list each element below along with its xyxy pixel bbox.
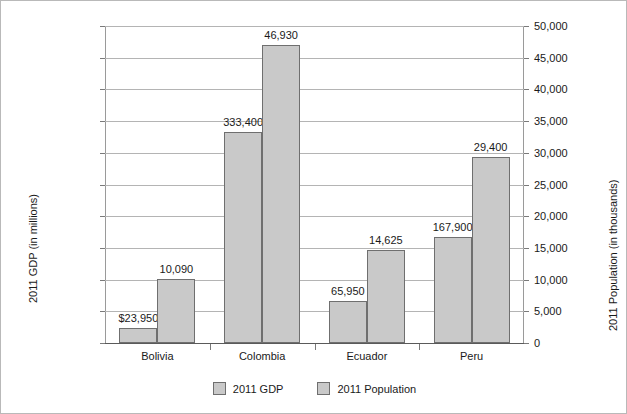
y-tick-label-right: 25,000 <box>534 180 568 191</box>
legend-item-population[interactable]: 2011 Population <box>317 382 416 395</box>
y-tick-right <box>524 248 529 249</box>
y-tick-left <box>100 26 105 27</box>
y-tick-left <box>100 121 105 122</box>
legend-swatch-icon <box>213 382 226 395</box>
y-tick-right <box>524 311 529 312</box>
bar-population <box>262 45 300 343</box>
bar-label-population: 10,090 <box>146 264 206 275</box>
y-tick-left <box>100 311 105 312</box>
y-tick-left <box>100 216 105 217</box>
y-tick-label-right: 45,000 <box>534 53 568 64</box>
y-tick-label-right: 40,000 <box>534 84 568 95</box>
bar-gdp <box>119 328 157 343</box>
x-category-label-bolivia: Bolivia <box>105 350 210 362</box>
y-tick-label-right: 50,000 <box>534 21 568 32</box>
y-tick-right <box>524 89 529 90</box>
y-tick-label-right: 10,000 <box>534 275 568 286</box>
y-tick-left <box>100 58 105 59</box>
y-tick-right <box>524 121 529 122</box>
x-category-label-colombia: Colombia <box>210 350 315 362</box>
bar-label-population: 46,930 <box>251 30 311 41</box>
gridline <box>105 89 524 90</box>
gridline <box>105 185 524 186</box>
bar-population <box>157 279 195 343</box>
legend-label: 2011 Population <box>337 383 416 395</box>
legend-label: 2011 GDP <box>233 383 284 395</box>
plot-area: $23,95010,090333,40046,93065,95014,62516… <box>105 26 524 343</box>
y-tick-right <box>524 185 529 186</box>
bar-population <box>472 157 510 343</box>
y-tick-label-right: 15,000 <box>534 243 568 254</box>
y-tick-right <box>524 280 529 281</box>
gridline <box>105 26 524 27</box>
legend: 2011 GDP2011 Population <box>1 382 627 395</box>
y-tick-right <box>524 153 529 154</box>
bar-label-population: 14,625 <box>356 235 416 246</box>
y-tick-left <box>100 280 105 281</box>
y-tick-left <box>100 153 105 154</box>
gridline <box>105 216 524 217</box>
gridline <box>105 58 524 59</box>
bar-gdp <box>224 132 262 343</box>
x-category-label-peru: Peru <box>419 350 524 362</box>
y-tick-label-right: 35,000 <box>534 116 568 127</box>
bar-chart: 2011 GDP (in millions) 2011 Population (… <box>0 0 627 414</box>
bar-gdp <box>329 301 367 343</box>
y-tick-right <box>524 216 529 217</box>
bar-population <box>367 250 405 343</box>
bar-gdp <box>434 237 472 343</box>
y-tick-right <box>524 343 529 344</box>
y-tick-label-right: 30,000 <box>534 148 568 159</box>
y-tick-right <box>524 26 529 27</box>
x-category-label-ecuador: Ecuador <box>315 350 420 362</box>
y-tick-left <box>100 185 105 186</box>
gridline <box>105 121 524 122</box>
y-tick-label-right: 5,000 <box>534 306 562 317</box>
gridline <box>105 153 524 154</box>
y-axis-title-left: 2011 GDP (in millions) <box>27 194 39 303</box>
y-axis-title-right: 2011 Population (in thousands) <box>607 180 619 331</box>
legend-swatch-icon <box>317 382 330 395</box>
y-tick-left <box>100 89 105 90</box>
legend-item-gdp[interactable]: 2011 GDP <box>213 382 284 395</box>
y-tick-label-right: 0 <box>534 338 540 349</box>
y-tick-left <box>100 343 105 344</box>
y-tick-right <box>524 58 529 59</box>
bar-label-population: 29,400 <box>461 142 521 153</box>
y-tick-left <box>100 248 105 249</box>
y-tick-label-right: 20,000 <box>534 211 568 222</box>
